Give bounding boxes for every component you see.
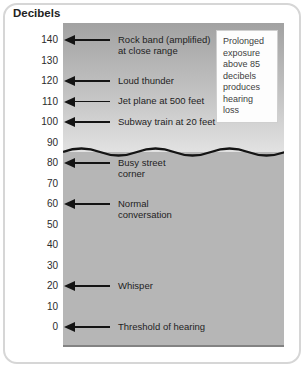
page-title: Decibels <box>13 7 60 19</box>
callout-box: Prolonged exposure above 85 decibels pro… <box>216 30 278 123</box>
callout-text: Prolonged exposure above 85 decibels pro… <box>223 36 271 117</box>
wavy-line <box>63 145 284 159</box>
